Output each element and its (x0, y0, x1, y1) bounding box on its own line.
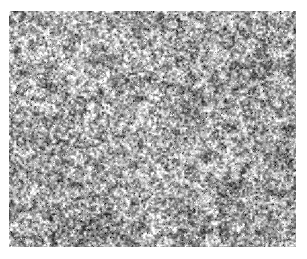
figure-root (0, 0, 307, 259)
micrograph-canvas (9, 11, 296, 247)
micrograph-image (9, 11, 296, 247)
